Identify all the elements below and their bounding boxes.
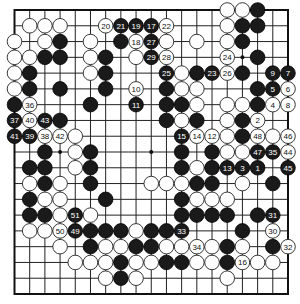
- black-stone: [174, 160, 189, 175]
- move-number-label: 3: [240, 164, 245, 173]
- move-number-label: 18: [132, 38, 141, 47]
- black-stone-move-51: 51: [68, 208, 83, 223]
- white-stone: [22, 224, 37, 239]
- white-stone-disc: [220, 192, 235, 207]
- move-number-label: 7: [286, 69, 291, 78]
- black-stone: [174, 145, 189, 160]
- white-stone-disc: [129, 271, 144, 286]
- black-stone: [205, 208, 220, 223]
- black-stone: [250, 3, 265, 18]
- white-stone-move-42: 42: [53, 129, 68, 144]
- white-stone-disc: [22, 224, 37, 239]
- black-stone: [174, 97, 189, 112]
- move-number-label: 31: [268, 211, 277, 220]
- black-stone: [235, 34, 250, 49]
- move-number-label: 38: [40, 132, 49, 141]
- white-stone: [144, 176, 159, 191]
- white-stone-disc: [235, 3, 250, 18]
- white-stone-disc: [98, 255, 113, 270]
- move-number-label: 49: [71, 227, 80, 236]
- move-number-label: 50: [56, 227, 65, 236]
- white-stone-disc: [159, 176, 174, 191]
- black-stone-move-5: 5: [266, 82, 281, 97]
- move-number-label: 15: [177, 132, 186, 141]
- black-stone: [83, 160, 98, 175]
- move-number-label: 48: [253, 132, 262, 141]
- white-stone-move-20: 20: [98, 18, 113, 33]
- black-stone-disc: [235, 34, 250, 49]
- black-stone-disc: [83, 224, 98, 239]
- white-stone: [114, 239, 129, 254]
- move-number-label: 26: [223, 69, 232, 78]
- move-number-label: 32: [284, 243, 293, 252]
- black-stone: [53, 50, 68, 65]
- white-stone-disc: [174, 82, 189, 97]
- black-stone-disc: [53, 82, 68, 97]
- black-stone-move-43: 43: [38, 113, 53, 128]
- black-stone: [190, 208, 205, 223]
- black-stone-move-45: 45: [281, 160, 296, 175]
- white-stone: [159, 239, 174, 254]
- white-stone: [98, 255, 113, 270]
- white-stone: [174, 113, 189, 128]
- white-stone-disc: [220, 129, 235, 144]
- black-stone-move-7: 7: [281, 66, 296, 81]
- black-stone-disc: [220, 255, 235, 270]
- white-stone-disc: [22, 18, 37, 33]
- black-stone: [250, 82, 265, 97]
- black-stone-disc: [266, 176, 281, 191]
- black-stone-disc: [235, 224, 250, 239]
- white-stone-move-16: 16: [235, 255, 250, 270]
- black-stone-disc: [38, 160, 53, 175]
- white-stone-disc: [190, 160, 205, 175]
- black-stone: [220, 208, 235, 223]
- white-stone-disc: [159, 239, 174, 254]
- black-stone-disc: [98, 82, 113, 97]
- black-stone-disc: [159, 97, 174, 112]
- white-stone: [205, 192, 220, 207]
- white-stone-disc: [53, 208, 68, 223]
- white-stone-disc: [83, 50, 98, 65]
- black-stone: [83, 97, 98, 112]
- black-stone: [220, 239, 235, 254]
- black-stone-disc: [250, 97, 265, 112]
- move-number-label: 33: [177, 227, 186, 236]
- white-stone: [220, 97, 235, 112]
- black-stone-disc: [266, 239, 281, 254]
- white-stone: [235, 145, 250, 160]
- white-stone: [83, 208, 98, 223]
- black-stone-move-25: 25: [159, 66, 174, 81]
- black-stone-disc: [250, 208, 265, 223]
- black-stone: [98, 224, 113, 239]
- black-stone-disc: [53, 113, 68, 128]
- white-stone: [129, 50, 144, 65]
- black-stone-disc: [114, 271, 129, 286]
- move-number-label: 51: [71, 211, 80, 220]
- black-stone: [205, 160, 220, 175]
- black-stone: [38, 176, 53, 191]
- white-stone-disc: [53, 192, 68, 207]
- white-stone-disc: [83, 208, 98, 223]
- white-stone-disc: [83, 34, 98, 49]
- black-stone-disc: [174, 160, 189, 175]
- black-stone-disc: [98, 66, 113, 81]
- black-stone: [205, 145, 220, 160]
- move-number-label: 34: [192, 243, 201, 252]
- black-stone: [190, 113, 205, 128]
- move-number-label: 4: [271, 101, 276, 110]
- move-number-label: 29: [147, 53, 156, 62]
- black-stone-disc: [174, 255, 189, 270]
- black-stone: [38, 145, 53, 160]
- white-stone-move-50: 50: [53, 224, 68, 239]
- white-stone-disc: [38, 224, 53, 239]
- black-stone-disc: [159, 113, 174, 128]
- black-stone-move-9: 9: [266, 66, 281, 81]
- white-stone-disc: [190, 255, 205, 270]
- move-number-label: 6: [286, 85, 291, 94]
- black-stone: [98, 82, 113, 97]
- white-stone-disc: [7, 82, 22, 97]
- white-stone: [220, 271, 235, 286]
- white-stone: [83, 34, 98, 49]
- white-stone-disc: [53, 239, 68, 254]
- black-stone-disc: [174, 208, 189, 223]
